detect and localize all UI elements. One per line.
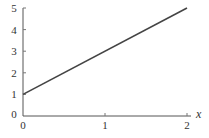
x-tick-label: 2 — [184, 119, 190, 131]
x-tick-label: 0 — [20, 119, 26, 131]
y-tick-label: 1 — [11, 88, 17, 100]
y-tick-label: 2 — [11, 67, 17, 79]
y-tick-label: 5 — [11, 2, 17, 14]
x-axis-label: x — [195, 107, 202, 121]
y-tick-label: 4 — [11, 24, 17, 36]
data-line — [23, 8, 187, 94]
chart: 5 4 3 2 1 0 0 1 2 x — [0, 0, 209, 138]
y-tick-label: 0 — [11, 108, 17, 120]
y-tick-label: 3 — [11, 45, 17, 57]
x-tick-label: 1 — [102, 119, 108, 131]
